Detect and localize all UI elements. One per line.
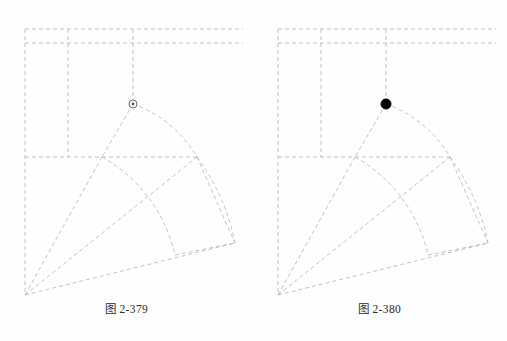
chord-line-2 xyxy=(175,243,235,255)
construction-drawing-2-380 xyxy=(253,0,506,305)
selected-point-marker xyxy=(381,99,391,109)
construction-drawing-2-379 xyxy=(0,0,253,305)
snap-node-marker-center-dot xyxy=(132,103,135,106)
radial-line-0 xyxy=(278,157,355,295)
illustration-page: 图 2-379 图 2-380 xyxy=(0,0,507,341)
figure-caption: 图 2-380 xyxy=(253,300,506,316)
chord-line-2 xyxy=(428,243,488,255)
figure-panel-2-379: 图 2-379 xyxy=(0,0,253,341)
chord-line-0 xyxy=(355,104,386,157)
chord-line-0 xyxy=(102,104,133,157)
radial-line-1 xyxy=(278,157,450,295)
inner-arc-upper xyxy=(133,104,197,157)
chord-line-1 xyxy=(450,157,488,243)
figure-panel-2-380: 图 2-380 xyxy=(253,0,506,341)
construction-lines-group-left xyxy=(25,29,243,295)
construction-lines-group-right xyxy=(278,29,496,295)
inner-arc-lower xyxy=(102,157,175,255)
marker-group-right xyxy=(381,99,391,109)
inner-arc-upper xyxy=(386,104,450,157)
radial-line-1 xyxy=(25,157,197,295)
marker-group-left xyxy=(129,100,137,108)
inner-arc-lower xyxy=(355,157,428,255)
figure-caption: 图 2-379 xyxy=(0,300,253,316)
radial-line-2 xyxy=(278,243,488,295)
chord-line-1 xyxy=(197,157,235,243)
radial-line-2 xyxy=(25,243,235,295)
radial-line-0 xyxy=(25,157,102,295)
